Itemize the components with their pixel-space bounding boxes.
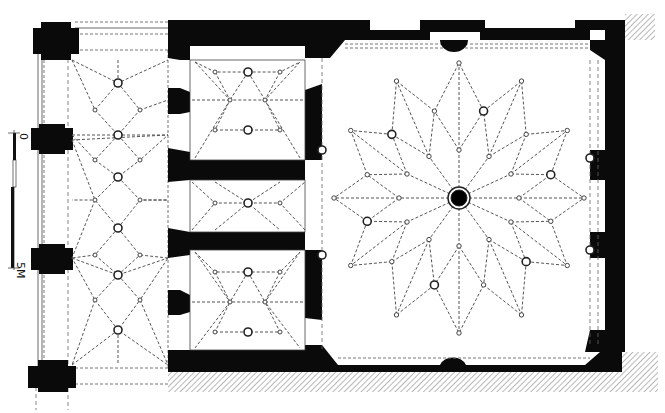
vault-rib [526, 262, 567, 266]
vault-rib [489, 240, 522, 315]
vault-rib [429, 111, 434, 156]
rib-junction [397, 196, 401, 200]
rib-junction [365, 173, 369, 177]
rib-junction [524, 132, 528, 136]
rib-junction [457, 148, 461, 152]
vault-rib [334, 175, 367, 198]
vault-rib [351, 222, 407, 266]
rib-junction [432, 109, 436, 113]
rib-junction [519, 313, 523, 317]
scale-start-label: 0 [17, 133, 30, 140]
vault-rib [434, 285, 459, 333]
vault-rib [551, 198, 584, 221]
vault-rib [367, 174, 407, 175]
vault-rib [489, 81, 522, 156]
rib-junction [565, 263, 569, 267]
rib-junction [457, 331, 461, 335]
vault-rib [434, 63, 459, 111]
vault-rib [459, 246, 484, 285]
rib-junction [509, 172, 513, 176]
hatched-ground-bottom [168, 370, 658, 392]
vault-rib [484, 111, 489, 156]
rib-junction [332, 196, 336, 200]
boss-stone [522, 258, 530, 266]
vault-rib [489, 134, 526, 156]
vault-rib [511, 222, 567, 266]
vault-rib [511, 174, 551, 175]
vault-rib [397, 81, 435, 111]
vault-rib [526, 131, 567, 135]
boss-stone [480, 107, 488, 115]
vault-rib [367, 175, 399, 198]
rib-junction [394, 313, 398, 317]
west-piers [28, 22, 79, 392]
vault-rib [351, 262, 392, 266]
rib-junction [517, 196, 521, 200]
rib-junction [349, 128, 353, 132]
vault-rib [511, 131, 567, 175]
scale-bar: 0 5M [8, 130, 30, 279]
vault-rib [367, 198, 399, 221]
scale-segment [11, 187, 14, 214]
rib-junction [349, 263, 353, 267]
vault-rib [551, 175, 584, 198]
vault-rib [434, 111, 459, 150]
scale-segment [13, 133, 16, 160]
vault-rib [392, 81, 397, 134]
boss-stone [388, 130, 396, 138]
vault-rib [511, 222, 526, 262]
vault-rib [511, 134, 526, 174]
vault-rib [351, 131, 407, 175]
vault-rib [392, 262, 397, 315]
vault-rib [459, 285, 484, 333]
boss-stone [363, 217, 371, 225]
vault-rib [334, 198, 367, 221]
rib-junction [390, 259, 394, 263]
vault-rib [519, 198, 551, 221]
vault-rib [484, 81, 522, 111]
vault-rib [367, 221, 407, 222]
hatched-ground-top-right [625, 14, 655, 40]
vault-rib [459, 63, 484, 111]
vault-rib [397, 240, 430, 315]
rib-junction [457, 244, 461, 248]
rib-junction [549, 219, 553, 223]
vault-rib [397, 285, 435, 315]
vault-rib [522, 262, 527, 315]
central-oculus [451, 190, 467, 206]
vault-rib [489, 240, 526, 262]
scale-segment [11, 214, 14, 241]
rib-junction [405, 172, 409, 176]
rib-junction [427, 237, 431, 241]
west-aisle-vault [72, 60, 168, 365]
rib-junction [394, 79, 398, 83]
vault-rib [351, 131, 392, 135]
vault-rib [434, 246, 459, 285]
rib-junction [487, 154, 491, 158]
rib-junction [519, 79, 523, 83]
vault-rib [519, 175, 551, 198]
rib-junction [405, 220, 409, 224]
scale-segment [11, 241, 14, 268]
scale-segment [13, 160, 16, 187]
vault-rib [429, 240, 434, 285]
vault-rib [397, 81, 430, 156]
vault-rib [392, 134, 407, 174]
rib-junction [582, 196, 586, 200]
hatched-ground-bottom-right [622, 352, 658, 372]
rib-junction [427, 154, 431, 158]
vault-rib [484, 285, 522, 315]
vault-rib [522, 81, 527, 134]
rib-junction [487, 237, 491, 241]
vault-rib [392, 222, 407, 262]
vault-rib [392, 240, 429, 262]
vault-rib [459, 111, 484, 150]
north-chamber-bosses [213, 68, 282, 134]
rib-junction [481, 283, 485, 287]
boss-stone [547, 171, 555, 179]
vault-rib [484, 240, 489, 285]
vault-plan-drawing: 0 5M [0, 0, 665, 413]
rib-junction [509, 220, 513, 224]
scale-end-label: 5M [14, 262, 27, 279]
boss-stone [430, 281, 438, 289]
